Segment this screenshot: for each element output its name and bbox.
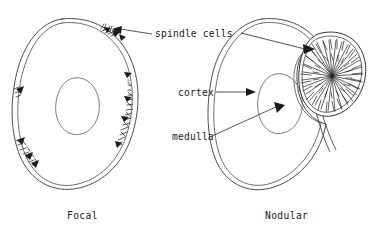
figure-canvas: spindle cells cortex medulla Focal Nodul… <box>0 0 386 240</box>
leader-medulla <box>212 102 285 136</box>
label-cortex: cortex <box>178 87 214 98</box>
focal-gland-outline <box>12 19 138 190</box>
caption-nodular: Nodular <box>265 210 308 221</box>
focal-spindle-patch-upper-right <box>101 24 126 41</box>
spindle-cell-nodule <box>299 32 366 116</box>
leader-cortex <box>216 88 256 96</box>
focal-spindle-patch-lower-left <box>16 137 39 168</box>
label-medulla: medulla <box>172 131 214 142</box>
label-spindle-cells: spindle cells <box>155 28 233 39</box>
spindle-cell-figure: spindle cells cortex medulla Focal Nodul… <box>0 0 386 240</box>
focal-gland-outline-inner <box>18 23 132 186</box>
leader-spindle-cells-nodule <box>241 33 315 54</box>
panel-focal <box>12 19 138 190</box>
caption-focal: Focal <box>67 210 98 221</box>
focal-medulla-outline <box>56 78 100 135</box>
